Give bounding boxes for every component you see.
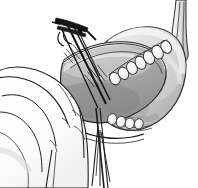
illustration-canvas xyxy=(0,0,198,188)
surgical-illustration-figure xyxy=(0,0,198,188)
